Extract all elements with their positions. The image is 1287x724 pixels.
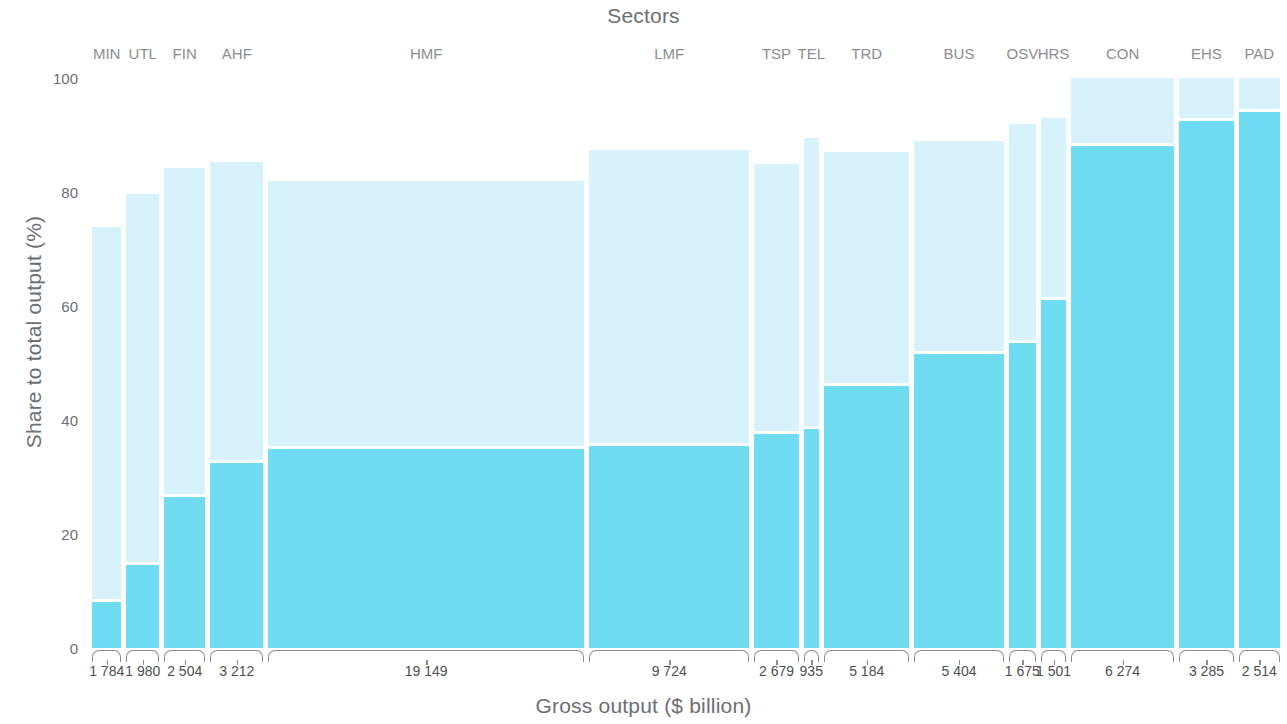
segment-upper-utl: [126, 194, 159, 563]
bar-osv[interactable]: [1009, 124, 1037, 648]
segment-upper-lmf: [589, 150, 749, 442]
bar-tsp[interactable]: [754, 164, 798, 649]
brace-osv: [1009, 650, 1037, 662]
segment-lower-con: [1071, 146, 1174, 648]
plot-area: [92, 78, 1280, 648]
segment-lower-trd: [824, 386, 909, 648]
segment-lower-bus: [914, 354, 1003, 648]
segment-lower-ehs: [1179, 121, 1233, 648]
marimekko-chart: Sectors Share to total output (%) 020406…: [0, 0, 1287, 724]
segment-lower-lmf: [589, 446, 749, 648]
segment-upper-ahf: [210, 162, 263, 460]
segment-upper-bus: [914, 141, 1003, 352]
bar-hrs[interactable]: [1041, 118, 1066, 648]
bar-tel[interactable]: [804, 138, 819, 648]
bar-hmf[interactable]: [268, 181, 584, 648]
segment-lower-fin: [164, 497, 205, 648]
brace-ehs: [1179, 650, 1233, 662]
y-tick-20: 20: [34, 527, 78, 542]
y-tick-0: 0: [34, 641, 78, 656]
brace-lmf: [589, 650, 749, 662]
x-axis-title: Gross output ($ billion): [0, 694, 1287, 718]
sector-label-pad: PAD: [1199, 46, 1287, 61]
segment-lower-tsp: [754, 434, 798, 648]
bar-con[interactable]: [1071, 78, 1174, 648]
brace-pad: [1239, 650, 1280, 662]
segment-upper-osv: [1009, 124, 1037, 340]
brace-utl: [126, 650, 159, 662]
segment-upper-hrs: [1041, 118, 1066, 297]
brace-tsp: [754, 650, 798, 662]
brace-con: [1071, 650, 1174, 662]
brace-tel: [804, 650, 819, 662]
segment-upper-trd: [824, 152, 909, 383]
segment-lower-osv: [1009, 343, 1037, 648]
segment-upper-ehs: [1179, 78, 1233, 118]
brace-hmf: [268, 650, 584, 662]
y-tick-60: 60: [34, 299, 78, 314]
y-tick-40: 40: [34, 413, 78, 428]
y-tick-100: 100: [34, 71, 78, 86]
segment-lower-min: [92, 602, 121, 648]
segment-lower-utl: [126, 565, 159, 648]
segment-upper-hmf: [268, 181, 584, 446]
segment-upper-tel: [804, 138, 819, 426]
brace-hrs: [1041, 650, 1066, 662]
brace-bus: [914, 650, 1003, 662]
bar-bus[interactable]: [914, 141, 1003, 648]
brace-fin: [164, 650, 205, 662]
y-tick-80: 80: [34, 185, 78, 200]
segment-upper-tsp: [754, 164, 798, 432]
bar-ehs[interactable]: [1179, 78, 1233, 648]
width-label-pad: 2 514: [1199, 664, 1287, 678]
segment-upper-fin: [164, 168, 205, 494]
bar-trd[interactable]: [824, 152, 909, 648]
bar-pad[interactable]: [1239, 78, 1280, 648]
bar-min[interactable]: [92, 227, 121, 648]
chart-title: Sectors: [0, 4, 1287, 28]
segment-lower-hmf: [268, 449, 584, 649]
bar-fin[interactable]: [164, 168, 205, 649]
brace-ahf: [210, 650, 263, 662]
brace-min: [92, 650, 121, 662]
bar-utl[interactable]: [126, 194, 159, 648]
segment-upper-min: [92, 227, 121, 599]
segment-lower-tel: [804, 429, 819, 648]
segment-upper-pad: [1239, 78, 1280, 109]
bar-ahf[interactable]: [210, 162, 263, 648]
segment-lower-ahf: [210, 463, 263, 648]
brace-trd: [824, 650, 909, 662]
segment-lower-pad: [1239, 112, 1280, 648]
segment-lower-hrs: [1041, 300, 1066, 648]
bar-lmf[interactable]: [589, 150, 749, 648]
segment-upper-con: [1071, 78, 1174, 143]
